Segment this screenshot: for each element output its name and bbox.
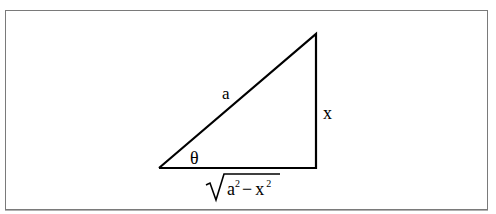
triangle-diagram: a x θ a2−x2 bbox=[0, 0, 496, 214]
adjacent-minus: − bbox=[242, 179, 252, 199]
triangle-shape bbox=[159, 34, 316, 168]
adjacent-side-label: a2−x2 bbox=[227, 178, 271, 199]
adjacent-base-a: a bbox=[227, 179, 235, 199]
adjacent-exp-x: 2 bbox=[266, 178, 271, 189]
hypotenuse-label: a bbox=[222, 84, 230, 103]
angle-label: θ bbox=[190, 148, 199, 168]
opposite-side-label: x bbox=[323, 103, 332, 123]
adjacent-base-x: x bbox=[255, 179, 264, 199]
adjacent-exp-a: 2 bbox=[235, 178, 240, 189]
